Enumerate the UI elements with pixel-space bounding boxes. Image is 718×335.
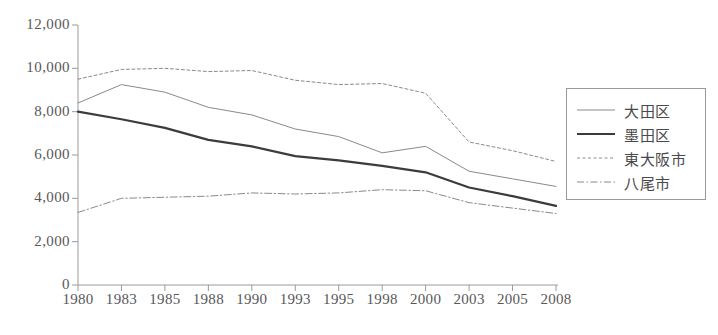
legend-line-swatch	[576, 104, 616, 116]
legend-line-swatch	[576, 152, 616, 164]
x-axis-tick-label: 1998	[367, 291, 398, 308]
x-axis-tick-label: 1993	[280, 291, 311, 308]
legend-item[interactable]: 東大阪市	[567, 146, 705, 170]
x-axis-tick-label: 2008	[540, 291, 571, 308]
x-axis-tick-label: 1988	[193, 291, 224, 308]
legend-item-label: 墨田区	[624, 124, 671, 145]
x-axis-tick-label: 2003	[453, 291, 484, 308]
legend-item-label: 八尾市	[624, 172, 671, 193]
legend-item[interactable]: 八尾市	[567, 170, 705, 194]
x-axis-tick-label: 1985	[149, 291, 180, 308]
legend-line-swatch	[576, 128, 616, 140]
legend-item-label: 東大阪市	[624, 148, 686, 169]
x-axis-tick-label: 1995	[323, 291, 354, 308]
x-axis-tick-label: 1990	[236, 291, 267, 308]
legend-item[interactable]: 墨田区	[567, 122, 705, 146]
legend-line-swatch	[576, 176, 616, 188]
x-axis-tick-label: 2005	[497, 291, 528, 308]
legend-item[interactable]: 大田区	[567, 98, 705, 122]
chart-legend: 大田区墨田区東大阪市八尾市	[566, 88, 706, 200]
x-axis-tick-label: 1983	[106, 291, 137, 308]
legend-item-label: 大田区	[624, 100, 671, 121]
x-axis-tick-label: 1980	[62, 291, 93, 308]
x-axis-tick-label: 2000	[410, 291, 441, 308]
chart-screenshot: 12,00010,0008,0006,0004,0002,0000 198019…	[0, 0, 718, 335]
